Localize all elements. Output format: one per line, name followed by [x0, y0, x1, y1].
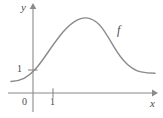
y-axis-label: y	[21, 2, 26, 13]
x-axis-arrowhead	[152, 90, 158, 97]
curve-label-f: f	[117, 24, 120, 36]
x-axis-tick-label-1: 1	[50, 97, 55, 107]
origin-label: 0	[22, 97, 27, 107]
y-axis-tick-label-1: 1	[17, 64, 22, 74]
graph-figure: y x f 0 1 1	[0, 0, 163, 118]
x-axis-label: x	[150, 98, 155, 109]
y-axis-arrowhead	[30, 3, 37, 9]
